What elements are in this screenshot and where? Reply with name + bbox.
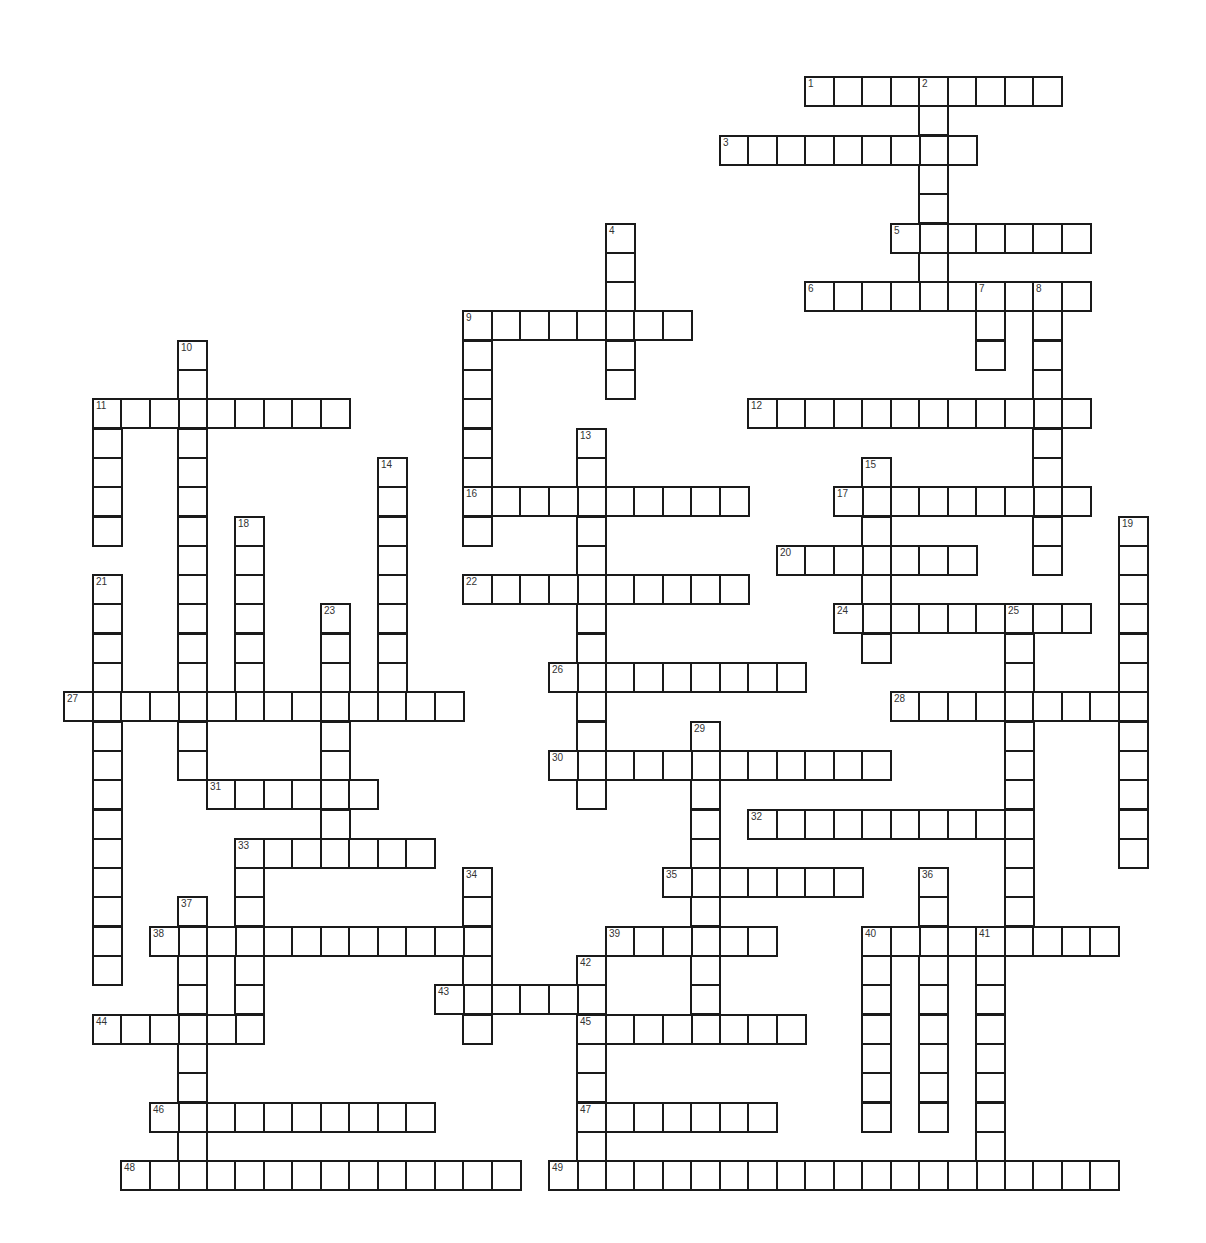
crossword-cell[interactable] (861, 281, 892, 312)
crossword-cell[interactable] (861, 633, 892, 664)
crossword-cell[interactable] (263, 1102, 294, 1133)
crossword-cell[interactable] (1089, 926, 1120, 957)
crossword-cell[interactable]: 19 (1118, 516, 1149, 547)
crossword-cell[interactable]: 6 (804, 281, 835, 312)
crossword-cell[interactable] (92, 691, 123, 722)
crossword-cell[interactable] (1118, 691, 1149, 722)
crossword-cell[interactable] (747, 926, 778, 957)
crossword-cell[interactable]: 33 (234, 838, 265, 869)
crossword-cell[interactable] (975, 340, 1006, 371)
crossword-cell[interactable] (206, 1160, 237, 1191)
crossword-cell[interactable] (605, 662, 636, 693)
crossword-cell[interactable] (633, 574, 664, 605)
crossword-cell[interactable] (861, 76, 892, 107)
crossword-cell[interactable] (462, 516, 493, 547)
crossword-cell[interactable] (662, 486, 693, 517)
crossword-cell[interactable] (120, 1014, 151, 1045)
crossword-cell[interactable] (177, 1072, 208, 1103)
crossword-cell[interactable] (690, 838, 721, 869)
crossword-cell[interactable] (861, 574, 892, 605)
crossword-cell[interactable] (947, 809, 978, 840)
crossword-cell[interactable] (576, 721, 607, 752)
crossword-cell[interactable] (861, 135, 892, 166)
crossword-cell[interactable]: 20 (776, 545, 807, 576)
crossword-cell[interactable] (177, 574, 208, 605)
crossword-cell[interactable] (177, 486, 208, 517)
crossword-cell[interactable] (833, 545, 864, 576)
crossword-cell[interactable] (1118, 779, 1149, 810)
crossword-cell[interactable] (405, 926, 436, 957)
crossword-cell[interactable] (690, 574, 721, 605)
crossword-cell[interactable]: 49 (548, 1160, 579, 1191)
crossword-cell[interactable] (690, 486, 721, 517)
crossword-cell[interactable] (234, 1102, 265, 1133)
crossword-cell[interactable] (747, 1160, 778, 1191)
crossword-cell[interactable] (234, 633, 265, 664)
crossword-cell[interactable] (348, 926, 379, 957)
crossword-cell[interactable] (605, 1102, 636, 1133)
crossword-cell[interactable] (975, 603, 1006, 634)
crossword-cell[interactable] (1004, 662, 1035, 693)
crossword-cell[interactable]: 43 (434, 984, 465, 1015)
crossword-cell[interactable] (377, 662, 408, 693)
crossword-cell[interactable] (690, 809, 721, 840)
crossword-cell[interactable] (576, 1131, 607, 1162)
crossword-cell[interactable] (92, 633, 123, 664)
crossword-cell[interactable] (92, 457, 123, 488)
crossword-cell[interactable] (206, 1014, 237, 1045)
crossword-cell[interactable] (320, 398, 351, 429)
crossword-cell[interactable]: 35 (662, 867, 693, 898)
crossword-cell[interactable] (92, 662, 123, 693)
crossword-cell[interactable] (291, 838, 322, 869)
crossword-cell[interactable] (975, 1131, 1006, 1162)
crossword-cell[interactable] (576, 1160, 607, 1191)
crossword-cell[interactable] (947, 691, 978, 722)
crossword-cell[interactable]: 12 (747, 398, 778, 429)
crossword-cell[interactable]: 4 (605, 223, 636, 254)
crossword-cell[interactable] (177, 691, 208, 722)
crossword-cell[interactable] (918, 545, 949, 576)
crossword-cell[interactable] (462, 340, 493, 371)
crossword-cell[interactable] (320, 1160, 351, 1191)
crossword-cell[interactable] (177, 603, 208, 634)
crossword-cell[interactable] (1004, 896, 1035, 927)
crossword-cell[interactable]: 23 (320, 603, 351, 634)
crossword-cell[interactable] (320, 809, 351, 840)
crossword-cell[interactable] (719, 662, 750, 693)
crossword-cell[interactable]: 14 (377, 457, 408, 488)
crossword-cell[interactable] (633, 1014, 664, 1045)
crossword-cell[interactable]: 34 (462, 867, 493, 898)
crossword-cell[interactable]: 36 (918, 867, 949, 898)
crossword-cell[interactable] (434, 926, 465, 957)
crossword-cell[interactable]: 5 (890, 223, 921, 254)
crossword-cell[interactable] (1061, 223, 1092, 254)
crossword-cell[interactable] (519, 310, 550, 341)
crossword-cell[interactable] (975, 223, 1006, 254)
crossword-cell[interactable] (177, 633, 208, 664)
crossword-cell[interactable] (719, 867, 750, 898)
crossword-cell[interactable] (576, 1043, 607, 1074)
crossword-cell[interactable] (320, 1102, 351, 1133)
crossword-cell[interactable] (633, 1102, 664, 1133)
crossword-cell[interactable] (462, 1014, 493, 1045)
crossword-cell[interactable]: 7 (975, 281, 1006, 312)
crossword-cell[interactable] (291, 691, 322, 722)
crossword-cell[interactable] (177, 1160, 208, 1191)
crossword-cell[interactable] (918, 926, 949, 957)
crossword-cell[interactable] (320, 926, 351, 957)
crossword-cell[interactable] (320, 633, 351, 664)
crossword-cell[interactable] (348, 838, 379, 869)
crossword-cell[interactable] (462, 369, 493, 400)
crossword-cell[interactable] (234, 545, 265, 576)
crossword-cell[interactable] (918, 1072, 949, 1103)
crossword-cell[interactable] (1032, 1160, 1063, 1191)
crossword-cell[interactable] (1004, 779, 1035, 810)
crossword-cell[interactable] (918, 105, 949, 136)
crossword-cell[interactable] (776, 135, 807, 166)
crossword-cell[interactable] (320, 721, 351, 752)
crossword-cell[interactable]: 17 (833, 486, 864, 517)
crossword-cell[interactable] (1004, 223, 1035, 254)
crossword-cell[interactable] (291, 1160, 322, 1191)
crossword-cell[interactable] (1061, 926, 1092, 957)
crossword-cell[interactable] (377, 486, 408, 517)
